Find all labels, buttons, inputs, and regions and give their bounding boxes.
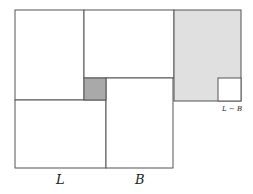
diagram-canvas: L − B L B <box>0 0 253 194</box>
top-middle-rectangle <box>84 10 174 78</box>
label-l-minus-b: L − B <box>221 105 242 113</box>
top-left-rectangle <box>15 10 84 100</box>
bottom-left-rectangle <box>15 100 106 168</box>
center-difference-square <box>84 78 106 100</box>
right-small-white-square <box>218 78 241 101</box>
label-b: B <box>134 172 145 187</box>
label-l: L <box>55 172 65 187</box>
bottom-middle-rectangle <box>106 78 173 168</box>
